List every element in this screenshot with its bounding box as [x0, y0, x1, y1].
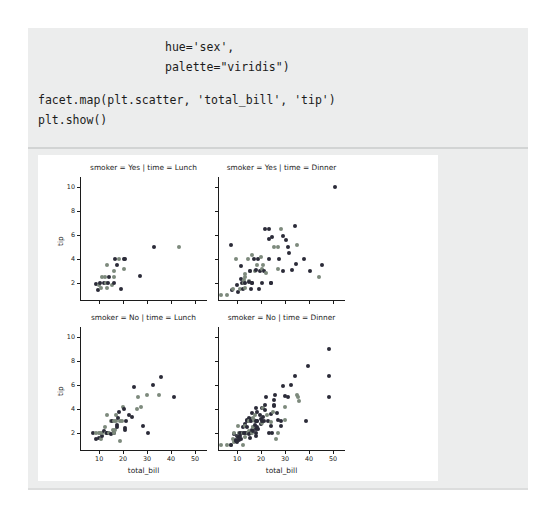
- x-axis-label: total_bill: [80, 466, 207, 475]
- x-tick-label: 50: [189, 455, 201, 463]
- scatter-point: [294, 262, 298, 266]
- scatter-point: [122, 267, 126, 271]
- x-tick: [261, 300, 262, 304]
- scatter-point: [112, 269, 116, 273]
- x-axis-label: total_bill: [218, 466, 345, 475]
- scatter-point: [157, 393, 161, 397]
- scatter-point: [105, 263, 109, 267]
- scatter-point: [261, 263, 265, 267]
- scatter-point: [138, 274, 142, 278]
- x-tick-label: 10: [231, 455, 243, 463]
- scatter-point: [123, 428, 127, 432]
- y-tick: [77, 337, 80, 338]
- x-tick-label: 30: [141, 455, 153, 463]
- x-tick: [195, 450, 196, 454]
- scatter-point: [275, 411, 279, 415]
- scatter-point: [136, 395, 140, 399]
- scatter-point: [248, 436, 252, 440]
- scatter-point: [243, 435, 247, 439]
- scatter-point: [229, 243, 233, 247]
- scatter-point: [256, 427, 260, 431]
- scatter-point: [327, 374, 331, 378]
- x-tick: [147, 300, 148, 304]
- scatter-point: [112, 275, 116, 279]
- scatter-point: [276, 267, 280, 271]
- scatter-point: [141, 424, 145, 428]
- scatter-point: [115, 263, 119, 267]
- scatter-point: [269, 281, 273, 285]
- x-tick: [123, 450, 124, 454]
- scatter-point: [130, 415, 134, 419]
- x-tick-label: 10: [93, 455, 105, 463]
- scatter-point: [270, 431, 274, 435]
- scatter-point: [270, 235, 274, 239]
- scatter-point: [145, 393, 149, 397]
- y-tick-label: 2: [63, 279, 75, 287]
- scatter-point: [135, 407, 139, 411]
- x-tick-label: 40: [165, 455, 177, 463]
- x-tick: [309, 450, 310, 454]
- scatter-point: [327, 395, 331, 399]
- scatter-point: [304, 419, 308, 423]
- scatter-point: [289, 383, 293, 387]
- x-tick: [309, 300, 310, 304]
- scatter-point: [246, 257, 250, 261]
- scatter-point: [269, 424, 273, 428]
- x-tick: [333, 450, 334, 454]
- scatter-point: [320, 263, 324, 267]
- y-tick-label: 10: [63, 183, 75, 191]
- scatter-point: [159, 375, 163, 379]
- scatter-point: [306, 364, 310, 368]
- x-tick: [171, 300, 172, 304]
- y-tick: [77, 211, 80, 212]
- scatter-point: [250, 281, 254, 285]
- scatter-point: [151, 383, 155, 387]
- scatter-point: [112, 281, 116, 285]
- x-tick-label: 20: [255, 455, 267, 463]
- scatter-point: [272, 403, 276, 407]
- y-tick: [215, 361, 218, 362]
- code-input-area[interactable]: hue='sex', palette="viridis") facet.map(…: [28, 28, 528, 147]
- scatter-point: [308, 269, 312, 273]
- scatter-point: [119, 287, 123, 291]
- y-tick-label: 8: [63, 207, 75, 215]
- scatter-point: [248, 269, 252, 273]
- y-tick: [77, 259, 80, 260]
- scatter-point: [231, 287, 235, 291]
- scatter-point: [257, 287, 261, 291]
- scatter-point: [219, 293, 223, 297]
- cell-output-area: smoker = Yes | time = Lunch246810tipsmok…: [28, 149, 528, 490]
- scatter-point: [241, 443, 245, 447]
- facet-panel-title: smoker = Yes | time = Dinner: [218, 163, 345, 172]
- x-tick: [237, 300, 238, 304]
- scatter-point: [112, 431, 116, 435]
- scatter-point: [259, 255, 263, 259]
- scatter-point: [239, 264, 243, 268]
- scatter-point: [283, 405, 287, 409]
- scatter-point: [146, 431, 150, 435]
- scatter-point: [239, 437, 243, 441]
- screenshot-root: hue='sex', palette="viridis") facet.map(…: [0, 0, 554, 518]
- scatter-point: [263, 403, 267, 407]
- y-axis-spine: [218, 327, 219, 450]
- y-tick-label: 8: [63, 357, 75, 365]
- scatter-point: [219, 443, 223, 447]
- scatter-point: [276, 245, 280, 249]
- code-line-1: hue='sex',: [165, 40, 234, 54]
- y-tick: [215, 409, 218, 410]
- scatter-point: [293, 374, 297, 378]
- scatter-point: [123, 257, 127, 261]
- x-tick: [123, 300, 124, 304]
- scatter-point: [279, 419, 283, 423]
- y-tick-label: 4: [63, 255, 75, 263]
- y-axis-spine: [80, 327, 81, 450]
- y-tick: [215, 211, 218, 212]
- scatter-point: [267, 257, 271, 261]
- facet-panel: smoker = No | time = Dinner1020304050tot…: [218, 327, 345, 450]
- scatter-point: [225, 293, 229, 297]
- scatter-point: [252, 257, 256, 261]
- y-tick: [77, 187, 80, 188]
- scatter-point: [287, 251, 291, 255]
- scatter-point: [105, 413, 109, 417]
- scatter-point: [118, 439, 122, 443]
